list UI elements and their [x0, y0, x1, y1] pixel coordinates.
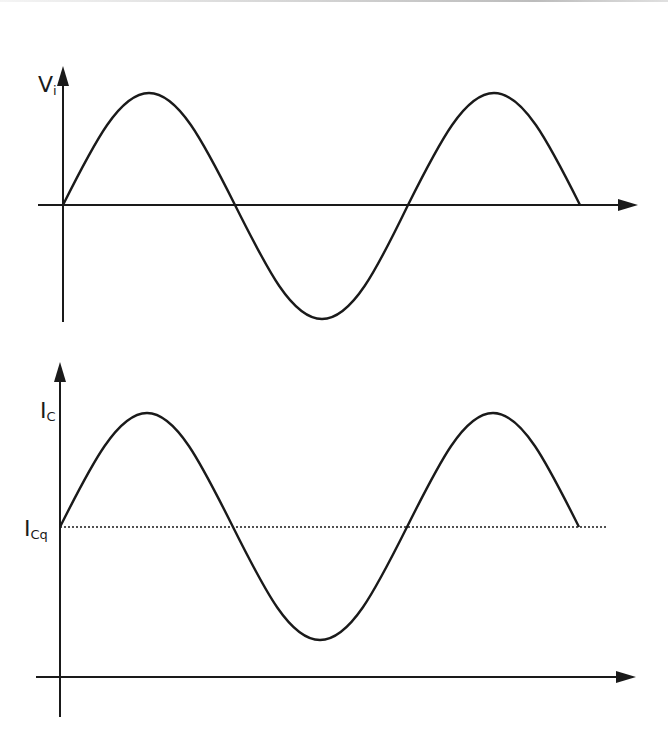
bottom-plot — [36, 362, 636, 717]
top-x-axis-arrow-icon — [618, 199, 638, 211]
vi-label: Vi — [38, 74, 57, 97]
top-y-axis-arrow-icon — [57, 66, 69, 86]
waveform-diagram — [0, 0, 668, 747]
bottom-y-axis-arrow-icon — [54, 362, 66, 382]
icq-label: ICq — [24, 518, 48, 541]
ic-label: IC — [40, 400, 56, 423]
top-plot — [38, 66, 638, 322]
bottom-x-axis-arrow-icon — [616, 671, 636, 683]
